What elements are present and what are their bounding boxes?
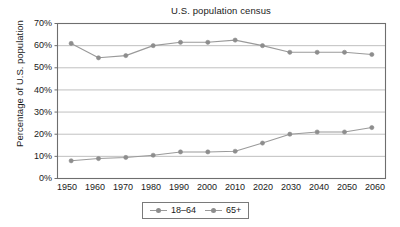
chart-title: U.S. population census (57, 5, 385, 16)
x-tick-label: 2060 (358, 183, 392, 192)
y-tick-label: 10% (20, 152, 52, 161)
data-point (288, 50, 292, 54)
y-tick-label: 60% (20, 41, 52, 50)
y-tick-label: 50% (20, 63, 52, 72)
legend-label: 18–64 (171, 205, 196, 215)
data-point (69, 41, 73, 45)
legend-label: 65+ (226, 205, 241, 215)
data-point (370, 52, 374, 56)
data-point (288, 132, 292, 136)
series-line-2 (71, 128, 372, 161)
legend-marker-icon (150, 207, 167, 214)
data-point (96, 56, 100, 60)
chart-legend: 18–64 65+ (142, 202, 249, 219)
data-point (260, 141, 264, 145)
data-point (370, 125, 374, 129)
data-point (178, 150, 182, 154)
data-point (315, 50, 319, 54)
data-point (233, 149, 237, 153)
y-tick-label: 30% (20, 108, 52, 117)
data-point (342, 130, 346, 134)
legend-marker-icon (205, 207, 222, 214)
data-point (233, 38, 237, 42)
y-tick-label: 0% (20, 174, 52, 183)
data-point (342, 50, 346, 54)
data-point (124, 155, 128, 159)
data-point (124, 54, 128, 58)
data-point (260, 44, 264, 48)
data-point (315, 130, 319, 134)
x-axis-tick-labels: 1950 1960 1970 1980 1990 2000 2010 2020 … (0, 183, 400, 197)
chart-figure: U.S. population census Percentage of U.S… (0, 0, 400, 227)
plot-frame (58, 24, 386, 179)
data-point (178, 40, 182, 44)
data-point (206, 150, 210, 154)
series-line-1 (71, 40, 372, 58)
legend-item-65-plus[interactable]: 65+ (205, 205, 241, 215)
data-point (69, 159, 73, 163)
data-point (206, 40, 210, 44)
data-point (151, 153, 155, 157)
y-tick-label: 20% (20, 130, 52, 139)
data-point (96, 156, 100, 160)
legend-item-18-64[interactable]: 18–64 (150, 205, 196, 215)
y-tick-label: 70% (20, 19, 52, 28)
data-point (151, 44, 155, 48)
y-tick-label: 40% (20, 86, 52, 95)
